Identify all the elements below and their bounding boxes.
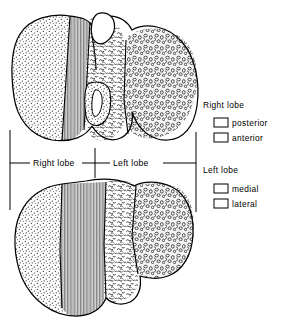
legend-item-posterior[interactable]: posterior: [214, 118, 268, 128]
axis-label-right-lobe: Right lobe: [33, 158, 75, 168]
medial-swatch: [214, 184, 228, 193]
legend-label-anterior: anterior: [232, 133, 263, 143]
liver-segmentation-figure: Right lobe Left lobe Righ: [0, 0, 284, 331]
legend-label-posterior: posterior: [232, 118, 268, 128]
legend-label-medial: medial: [232, 184, 259, 194]
legend-label-lateral: lateral: [232, 199, 257, 209]
legend-group-heading-left-lobe: Left lobe: [203, 165, 238, 175]
posterior-swatch: [214, 118, 228, 127]
legend-item-medial[interactable]: medial: [214, 184, 259, 194]
legend: Right lobe posterior anterior Left lobe …: [203, 100, 268, 209]
axis-label-left-lobe: Left lobe: [113, 158, 149, 168]
legend-group-heading-right-lobe: Right lobe: [203, 100, 244, 110]
anterior-swatch: [214, 133, 228, 142]
legend-item-anterior[interactable]: anterior: [214, 133, 263, 143]
legend-item-lateral[interactable]: lateral: [214, 199, 257, 209]
lateral-swatch: [214, 199, 228, 208]
